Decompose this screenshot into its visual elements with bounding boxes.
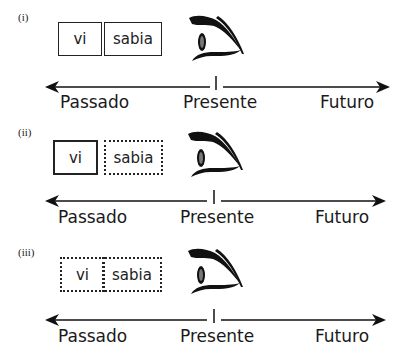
axis-label-present: Presente xyxy=(180,326,254,346)
panel-label: (iii) xyxy=(18,246,35,258)
box-text: sabia xyxy=(113,30,153,48)
axis-label-present: Presente xyxy=(183,92,257,112)
axis-label-future: Futuro xyxy=(315,326,369,346)
axis-label-present: Presente xyxy=(180,207,254,227)
box-text: vi xyxy=(73,30,86,48)
eye-icon xyxy=(186,12,246,62)
axis-label-future: Futuro xyxy=(320,92,374,112)
box-text: vi xyxy=(69,149,82,167)
verb-box-sabia: sabia xyxy=(104,22,162,56)
verb-box-vi: vi xyxy=(58,22,102,56)
axis-label-future: Futuro xyxy=(315,207,369,227)
verb-box-vi: vi xyxy=(53,140,98,175)
eye-icon xyxy=(185,245,245,295)
eye-icon xyxy=(185,128,245,178)
axis-label-past: Passado xyxy=(58,326,127,346)
axis-label-past: Passado xyxy=(58,207,127,227)
panel-label: (ii) xyxy=(18,126,31,138)
verb-box-sabia: sabia xyxy=(104,140,163,175)
axis-label-past: Passado xyxy=(60,92,129,112)
panel-label: (i) xyxy=(18,11,28,23)
box-text: vi xyxy=(76,266,89,284)
box-text: sabia xyxy=(112,266,152,284)
box-text: sabia xyxy=(114,149,154,167)
verb-box-vi: vi xyxy=(60,257,105,292)
verb-box-sabia: sabia xyxy=(102,257,162,292)
